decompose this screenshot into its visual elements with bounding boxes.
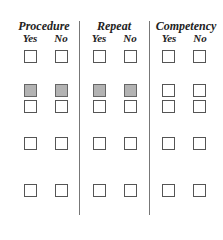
checkbox-row5-procedure-yes[interactable] [24, 184, 37, 197]
checkbox-row4-competency-yes[interactable] [162, 137, 175, 150]
checkbox-row1-competency-no[interactable] [193, 50, 206, 63]
procedure-no-label: No [46, 33, 76, 44]
header-procedure: Procedure [14, 20, 74, 32]
header-competency: Competency [152, 20, 220, 32]
checkbox-row1-competency-yes[interactable] [162, 50, 175, 63]
checkbox-row2-procedure-yes[interactable] [24, 84, 37, 97]
checkbox-row5-competency-yes[interactable] [162, 184, 175, 197]
checkbox-row4-repeat-yes[interactable] [93, 137, 106, 150]
checkbox-row2-procedure-no[interactable] [55, 84, 68, 97]
checkbox-row3-repeat-yes[interactable] [93, 100, 106, 113]
checkbox-row4-repeat-no[interactable] [124, 137, 137, 150]
checkbox-row3-competency-yes[interactable] [162, 100, 175, 113]
checkbox-row3-procedure-no[interactable] [55, 100, 68, 113]
checkbox-row1-repeat-no[interactable] [124, 50, 137, 63]
checkbox-row1-procedure-yes[interactable] [24, 50, 37, 63]
repeat-no-label: No [115, 33, 145, 44]
divider-repeat-competency [149, 21, 150, 215]
repeat-yes-label: Yes [84, 33, 114, 44]
checkbox-row2-competency-no[interactable] [193, 84, 206, 97]
checkbox-row5-competency-no[interactable] [193, 184, 206, 197]
checkbox-row5-repeat-yes[interactable] [93, 184, 106, 197]
checkbox-row4-competency-no[interactable] [193, 137, 206, 150]
divider-procedure-repeat [79, 21, 80, 215]
checkbox-row2-competency-yes[interactable] [162, 84, 175, 97]
checkbox-row4-procedure-no[interactable] [55, 137, 68, 150]
checkbox-row2-repeat-yes[interactable] [93, 84, 106, 97]
header-repeat: Repeat [84, 20, 144, 32]
checkbox-row5-repeat-no[interactable] [124, 184, 137, 197]
checkbox-row5-procedure-no[interactable] [55, 184, 68, 197]
checkbox-row2-repeat-no[interactable] [124, 84, 137, 97]
checkbox-row1-procedure-no[interactable] [55, 50, 68, 63]
checkbox-row3-procedure-yes[interactable] [24, 100, 37, 113]
checkbox-row4-procedure-yes[interactable] [24, 137, 37, 150]
procedure-yes-label: Yes [15, 33, 45, 44]
checkbox-row3-competency-no[interactable] [193, 100, 206, 113]
competency-no-label: No [185, 33, 215, 44]
checkbox-row3-repeat-no[interactable] [124, 100, 137, 113]
competency-yes-label: Yes [154, 33, 184, 44]
checkbox-row1-repeat-yes[interactable] [93, 50, 106, 63]
